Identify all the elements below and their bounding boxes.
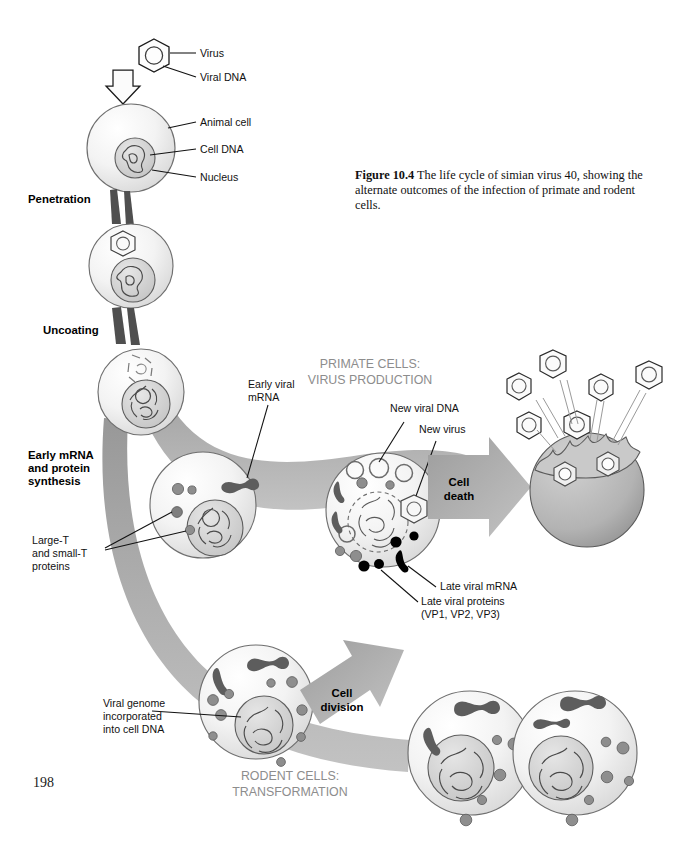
label-large-small-t-3: proteins [32,560,70,572]
label-early-viral-mrna-1: Early viral [248,378,295,390]
nucleus-shape [428,735,494,801]
stage-label-penetration: Penetration [28,193,91,205]
arrow-label-cell-death-2: death [444,490,474,502]
label-large-small-t-2: and small-T [32,547,88,559]
t-protein-dot [172,507,183,518]
branch-label-rodent-1: RODENT CELLS: [241,769,339,783]
cell-uncoating [98,349,184,435]
label-early-viral-mrna-2: mRNA [248,391,280,403]
daughter-cell-right [513,691,637,826]
connector-penetration [110,189,134,226]
late-viral-protein-dot [390,536,401,547]
new-virus-particle [401,495,427,523]
internalized-virion [111,231,135,256]
entry-arrow-icon [106,70,140,104]
label-animal-cell: Animal cell [200,116,251,128]
label-late-viral-proteins-2: (VP1, VP2, VP3) [421,608,500,620]
leader-viral-dna [163,66,196,77]
label-virus: Virus [200,47,224,59]
label-cell-dna: Cell DNA [200,143,244,155]
label-viral-genome-1: Viral genome [103,697,165,709]
label-new-virus: New virus [419,423,466,435]
lysing-cell [507,350,662,547]
branch-label-rodent-2: TRANSFORMATION [232,785,347,799]
leader-late-viral-proteins [381,570,418,602]
label-viral-genome-2: incorporated [103,710,162,722]
leader-late-viral-mrna [408,566,436,587]
page-number: 198 [33,775,54,791]
stage-label-uncoating: Uncoating [43,324,99,336]
label-late-viral-proteins-1: Late viral proteins [421,595,505,607]
arrow-label-cell-division-2: division [320,701,363,713]
cell-virus-production [326,453,440,573]
cell-penetrated [89,224,173,308]
figure-caption: Figure 10.4 The life cycle of simian vir… [355,168,655,214]
late-viral-protein-dot [409,531,418,540]
t-protein-dot [185,525,194,534]
stage-label-early-1: Early mRNA [28,449,94,461]
cells-daughter-pair [408,691,637,826]
label-large-small-t-1: Large-T [32,534,70,546]
branch-label-primate-2: VIRUS PRODUCTION [308,373,433,387]
figure-number: Figure 10.4 [355,168,414,182]
branch-label-primate-1: PRIMATE CELLS: [320,357,420,371]
t-protein-dot [172,483,183,494]
stage-label-early-2: and protein [28,462,90,474]
label-late-viral-mrna: Late viral mRNA [440,580,518,592]
cell-animal [87,104,175,192]
arrow-label-cell-division-1: Cell [332,687,353,699]
label-viral-dna: Viral DNA [200,71,247,83]
label-nucleus: Nucleus [200,171,238,183]
late-viral-protein-dot [358,560,369,571]
arrow-label-cell-death-1: Cell [449,476,470,488]
nucleus-shape [122,380,170,428]
leader-animal-cell [168,122,196,128]
label-new-viral-dna: New viral DNA [390,402,460,414]
stage-label-early-3: synthesis [28,475,81,487]
connector-uncoating [112,307,140,345]
late-viral-protein-dot [374,559,384,569]
nucleus-shape [111,258,155,302]
label-viral-genome-3: into cell DNA [103,723,165,735]
sv40-life-cycle-figure: Virus Viral DNA Animal cell Cell DNA Nuc… [0,0,689,865]
t-protein-dot [188,486,196,494]
nucleus-shape [187,500,243,556]
